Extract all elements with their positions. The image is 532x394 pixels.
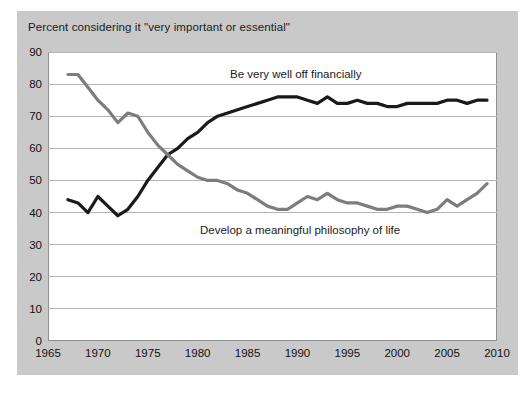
x-axis-tick-label: 2010 xyxy=(484,347,510,359)
x-axis-tick-label: 1985 xyxy=(235,347,261,359)
plot-svg xyxy=(48,52,497,341)
y-axis-tick-label: 20 xyxy=(6,271,42,283)
x-axis-tick-label: 1965 xyxy=(35,347,61,359)
chart-title: Percent considering it "very important o… xyxy=(28,21,290,33)
y-axis-tick-label: 40 xyxy=(6,207,42,219)
y-axis-tick-label: 10 xyxy=(6,303,42,315)
gridlines xyxy=(48,52,497,341)
figure: Percent considering it "very important o… xyxy=(0,0,532,394)
x-axis-tick-label: 1975 xyxy=(135,347,161,359)
x-axis-tick-label: 1980 xyxy=(185,347,211,359)
series-label-develop-a-meaningful-philosophy-of-life: Develop a meaningful philosophy of life xyxy=(200,224,400,236)
y-axis-tick-label: 90 xyxy=(6,46,42,58)
x-axis-tick-label: 2005 xyxy=(434,347,460,359)
y-axis-tick-label: 80 xyxy=(6,78,42,90)
x-axis-tick-label: 2000 xyxy=(384,347,410,359)
y-axis-tick-label: 70 xyxy=(6,110,42,122)
y-axis-tick-label: 60 xyxy=(6,142,42,154)
x-axis-tick-label: 1995 xyxy=(335,347,361,359)
x-axis-tick-label: 1970 xyxy=(85,347,111,359)
series-paths xyxy=(68,74,487,215)
series-label-be-very-well-off-financially: Be very well off financially xyxy=(230,68,361,80)
y-axis-tick-label: 30 xyxy=(6,239,42,251)
series-line-philosophy xyxy=(68,74,487,212)
y-axis-tick-label: 50 xyxy=(6,174,42,186)
x-axis-tick-label: 1990 xyxy=(285,347,311,359)
y-axis-tick-label: 0 xyxy=(6,335,42,347)
